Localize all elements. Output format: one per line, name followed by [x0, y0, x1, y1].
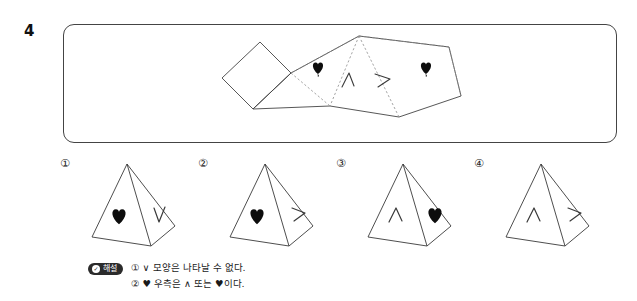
explanation-badge: ✓ 해설: [88, 263, 123, 275]
option-4-chevron-up-icon: [527, 208, 540, 222]
answer-options: ① ②: [0, 152, 637, 260]
option-4-chevron-right-icon: [568, 208, 581, 221]
pyramid-front-edge-4: [541, 164, 565, 246]
pyramid-silhouette-1: [92, 164, 175, 246]
net-figure-wrap: [64, 25, 618, 144]
net-lateral-outline: [253, 36, 461, 117]
chevron-right-icon: [375, 74, 390, 87]
option-1[interactable]: ①: [56, 152, 194, 260]
pyramid-silhouette-3: [368, 164, 451, 246]
worksheet-page: 4: [0, 0, 637, 301]
explanation-line-1: ① ∨ 모양은 나타날 수 없다.: [131, 262, 246, 275]
option-3-chevron-up-icon: [389, 208, 402, 222]
option-2-heart-icon: [250, 209, 263, 224]
heart-right-icon: [421, 62, 431, 77]
option-3-label: ③: [336, 158, 346, 169]
option-1-v-icon: [154, 207, 165, 222]
option-1-label: ①: [60, 158, 70, 169]
option-4[interactable]: ④: [470, 152, 608, 260]
explanation-badge-label: 해설: [103, 265, 117, 273]
option-4-label: ④: [474, 158, 484, 169]
fold-line-3: [359, 36, 399, 117]
option-2-label: ②: [198, 158, 208, 169]
option-2[interactable]: ②: [194, 152, 332, 260]
pyramid-silhouette-2: [230, 164, 313, 246]
option-3[interactable]: ③: [332, 152, 470, 260]
option-3-figure: [362, 160, 467, 258]
explanation-block: ✓ 해설 ① ∨ 모양은 나타날 수 없다. ② ♥ 우측은 ∧ 또는 ♥이다.: [88, 262, 246, 291]
explanation-lines: ① ∨ 모양은 나타날 수 없다. ② ♥ 우측은 ∧ 또는 ♥이다.: [129, 262, 246, 291]
chevron-up-icon: [342, 73, 354, 87]
explanation-line-2: ② ♥ 우측은 ∧ 또는 ♥이다.: [131, 278, 246, 291]
option-3-heart-icon: [428, 208, 441, 223]
check-icon: ✓: [92, 265, 100, 273]
net-base-square: [222, 42, 291, 109]
pyramid-silhouette-4: [506, 164, 589, 246]
fold-line-5: [291, 73, 330, 106]
pyramid-net-svg: [64, 25, 618, 144]
option-2-figure: [224, 160, 329, 258]
option-4-figure: [500, 160, 605, 258]
stimulus-box: [63, 24, 617, 143]
option-1-heart-icon: [112, 209, 125, 224]
option-1-figure: [86, 160, 191, 258]
pyramid-front-edge-1: [127, 164, 151, 246]
question-number: 4: [24, 24, 34, 39]
pyramid-front-edge-2: [265, 164, 289, 246]
pyramid-front-edge-3: [403, 164, 427, 246]
option-2-chevron-right-icon: [292, 208, 305, 221]
heart-left-icon: [313, 62, 323, 77]
fold-line-2: [330, 36, 359, 106]
